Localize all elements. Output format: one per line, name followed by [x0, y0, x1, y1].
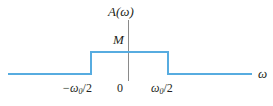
pulse-left-edge-segment	[90, 51, 92, 75]
y-axis-label: A(ω)	[108, 5, 134, 18]
x-axis-label: ω	[258, 67, 267, 80]
signal-baseline-left-segment	[8, 73, 90, 75]
amplitude-label-m: M	[113, 33, 124, 46]
pulse-right-edge-segment	[167, 51, 169, 75]
spectrum-plot-figure: A(ω) M ω −ω0/2 0 ω0/2	[0, 0, 273, 106]
tick-neg-fraction: /2	[83, 81, 92, 95]
x-tick-label-zero: 0	[117, 82, 123, 94]
pulse-top-segment	[90, 51, 169, 53]
tick-neg-main: −ω	[62, 81, 79, 95]
signal-baseline-right-segment	[167, 73, 252, 75]
tick-pos-fraction: /2	[163, 81, 172, 95]
x-tick-label-negative-omega-half: −ω0/2	[62, 82, 92, 96]
x-tick-label-positive-omega-half: ω0/2	[151, 82, 173, 96]
